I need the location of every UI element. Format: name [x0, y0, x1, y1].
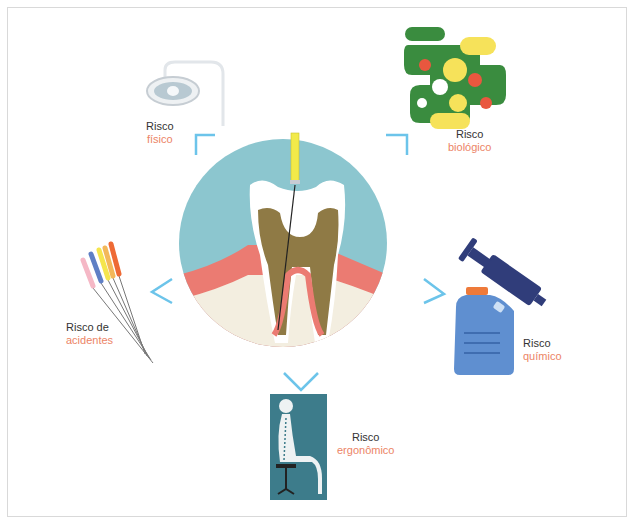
label-risco-fisico: Risco físico — [146, 120, 174, 146]
seated-posture-icon — [270, 394, 327, 500]
file-handle — [291, 133, 299, 181]
label-risco-quimico: Risco químico — [523, 337, 562, 363]
tooth-root-canal-icon — [178, 125, 388, 360]
corner-marker-top-left — [195, 134, 215, 156]
label-risco-ergonomico: Risco ergonômico — [337, 431, 394, 457]
chevron-down-marker — [283, 372, 319, 392]
label-risco-acidentes: Risco de acidentes — [66, 321, 113, 347]
corner-marker-top-right — [386, 134, 408, 156]
microorganisms-icon — [400, 25, 510, 135]
chevron-right-marker — [422, 278, 446, 304]
dental-lamp-icon — [135, 58, 235, 128]
label-risco-biologico: Risco biológico — [448, 128, 491, 154]
